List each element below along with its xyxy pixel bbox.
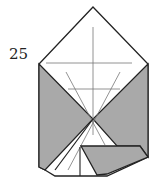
origami-diagram <box>0 0 158 191</box>
